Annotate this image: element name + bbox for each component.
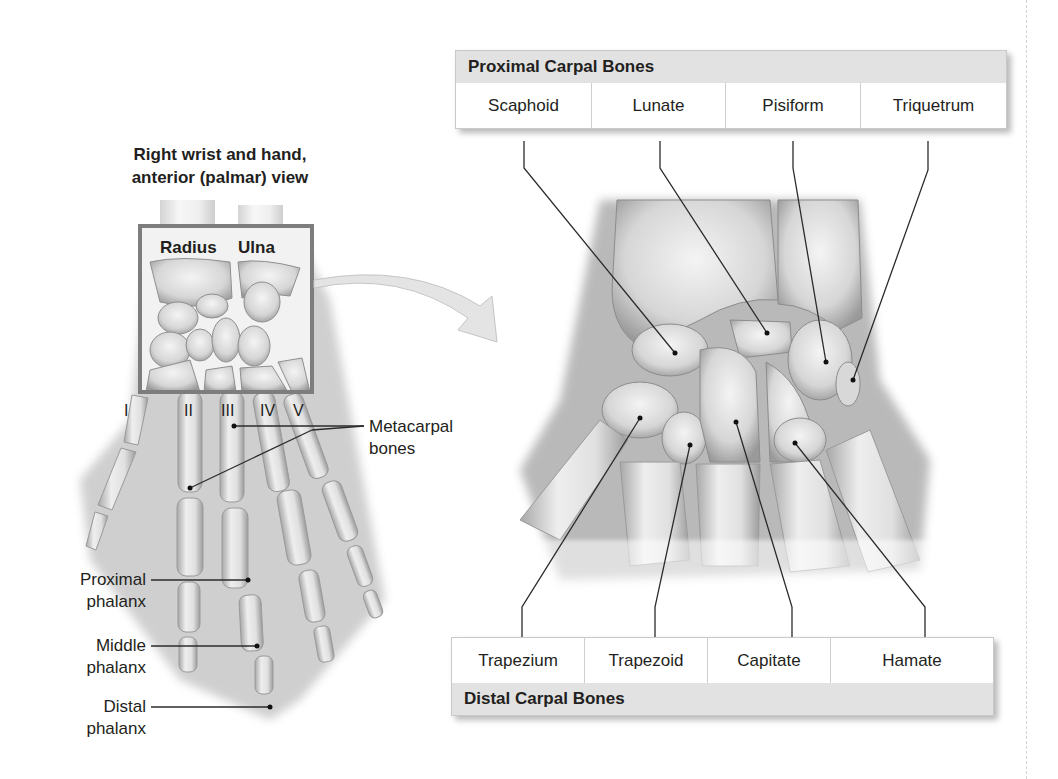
distal-phalanx-label: Distal phalanx	[50, 696, 146, 740]
proximal-carpal-header: Proximal Carpal Bones	[456, 51, 1006, 83]
radius-label: Radius	[160, 238, 217, 258]
hamate-cell: Hamate	[830, 638, 993, 683]
metacarpal-bones-label: Metacarpal bones	[369, 416, 453, 460]
proximal-carpal-row: Scaphoid Lunate Pisiform Triquetrum	[456, 83, 1006, 128]
numeral-i: I	[124, 402, 128, 420]
pisiform-cell: Pisiform	[725, 83, 860, 128]
distal-carpal-row: Trapezium Trapezoid Capitate Hamate	[452, 638, 993, 683]
trapezium-cell: Trapezium	[452, 638, 584, 683]
proximal-phalanx-label: Proximal phalanx	[50, 569, 146, 613]
triquetrum-cell: Triquetrum	[860, 83, 1006, 128]
capitate-cell: Capitate	[707, 638, 830, 683]
distal-carpal-header: Distal Carpal Bones	[452, 683, 993, 715]
middle-phalanx-label: Middle phalanx	[50, 635, 146, 679]
lunate-cell: Lunate	[591, 83, 725, 128]
numeral-iii: III	[221, 402, 234, 420]
numeral-v: V	[293, 402, 304, 420]
distal-carpal-table: Trapezium Trapezoid Capitate Hamate Dist…	[451, 637, 994, 716]
figure-title-line1: Right wrist and hand,	[100, 143, 340, 166]
page-edge-divider	[1026, 0, 1027, 779]
ulna-label: Ulna	[238, 238, 275, 258]
zoom-arrow	[314, 275, 497, 342]
numeral-ii: II	[184, 402, 193, 420]
figure-title-line2: anterior (palmar) view	[100, 166, 340, 189]
proximal-carpal-table: Proximal Carpal Bones Scaphoid Lunate Pi…	[455, 50, 1007, 129]
figure-title: Right wrist and hand, anterior (palmar) …	[100, 143, 340, 189]
numeral-iv: IV	[260, 402, 275, 420]
trapezoid-cell: Trapezoid	[584, 638, 707, 683]
scaphoid-cell: Scaphoid	[456, 83, 591, 128]
